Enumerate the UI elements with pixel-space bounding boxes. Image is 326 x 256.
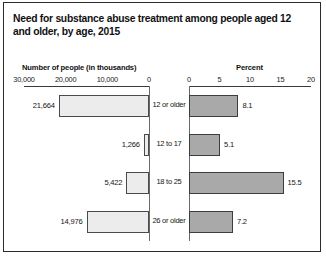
right-axis-title: Percent xyxy=(236,63,263,72)
percent-value-label: 7.2 xyxy=(237,217,247,226)
chart-frame: Need for substance abuse treatment among… xyxy=(3,2,321,252)
chart-title: Need for substance abuse treatment among… xyxy=(13,13,309,38)
count-value-label: 1,266 xyxy=(122,140,140,149)
chart-row: 1,26612 to 175.1 xyxy=(4,126,326,165)
percent-bar xyxy=(189,172,284,194)
count-bar xyxy=(59,95,149,117)
axis-tick-label: 0 xyxy=(187,75,191,84)
category-label: 12 or older xyxy=(149,100,189,109)
count-value-label: 21,664 xyxy=(33,101,55,110)
percent-bar xyxy=(189,95,238,117)
axis-tick-label: 20 xyxy=(307,75,315,84)
percent-bar xyxy=(189,134,220,156)
percent-bar xyxy=(189,211,233,233)
count-value-label: 5,422 xyxy=(104,178,122,187)
count-bar xyxy=(87,211,149,233)
chart-row: 14,97626 or older7.2 xyxy=(4,203,326,242)
axis-tick-label: 30,000 xyxy=(13,75,34,84)
left-axis-ticks: 30,00020,00010,0000 xyxy=(16,75,149,85)
percent-value-label: 15.5 xyxy=(288,178,302,187)
left-axis-title: Number of people (in thousands) xyxy=(22,63,136,72)
chart-row: 21,66412 or older8.1 xyxy=(4,87,326,126)
percent-value-label: 8.1 xyxy=(242,101,252,110)
axis-tick-label: 0 xyxy=(147,75,151,84)
category-label: 26 or older xyxy=(149,216,189,225)
count-value-label: 14,976 xyxy=(61,217,83,226)
percent-value-label: 5.1 xyxy=(224,140,234,149)
axis-tick-label: 10,000 xyxy=(97,75,118,84)
axis-tick-label: 15 xyxy=(277,75,285,84)
axis-tick-label: 20,000 xyxy=(55,75,76,84)
category-label: 12 to 17 xyxy=(149,139,189,148)
category-label: 18 to 25 xyxy=(149,177,189,186)
plot-area: 21,66412 or older8.11,26612 to 175.15,42… xyxy=(4,87,326,241)
axis-tick-label: 5 xyxy=(218,75,222,84)
right-axis-ticks: 05101520 xyxy=(187,75,313,85)
chart-row: 5,42218 to 2515.5 xyxy=(4,164,326,203)
count-bar xyxy=(126,172,149,194)
axis-tick-label: 10 xyxy=(246,75,254,84)
